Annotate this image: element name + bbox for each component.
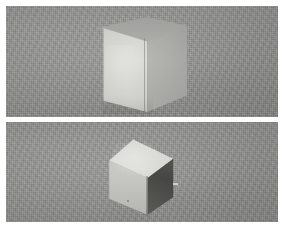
cube-specular-sheen (112, 143, 160, 177)
panel-vignette (6, 6, 278, 117)
cube-surface-speck (127, 200, 129, 202)
cube-object-bottom (106, 138, 186, 218)
panel-bottom: Bottom panel Smaller cube, rotated and t… (6, 122, 278, 222)
panel-vignette (6, 122, 278, 222)
panel-top: Top panel Large pale cube photographed n… (6, 6, 278, 117)
cube-object-top (94, 14, 189, 116)
cube-top-left-edge (102, 26, 148, 57)
panel-background-texture (6, 122, 278, 222)
cube-edge-glint (173, 183, 178, 185)
cube-specular-sheen (105, 45, 143, 98)
figure-container: Top panel Large pale cube photographed n… (0, 0, 283, 230)
cube-base-shadow (102, 96, 153, 114)
cube-front-left-face (106, 138, 186, 218)
cube-left-front-face (94, 14, 189, 116)
cube-top-face (106, 138, 186, 218)
cube-front-vertical-edge (146, 176, 147, 216)
cube-top-face (94, 14, 189, 116)
cube-right-front-face (94, 14, 189, 116)
cube-right-shadow-face (106, 138, 186, 218)
cube-front-vertical-edge (144, 38, 145, 111)
panel-background-texture (6, 6, 278, 117)
